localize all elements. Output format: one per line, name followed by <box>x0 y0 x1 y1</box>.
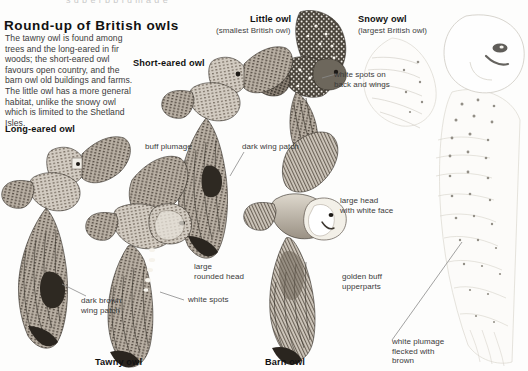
leader-white-spots <box>160 292 184 300</box>
page-title: Round-up of British owls <box>4 18 179 33</box>
annotation-dark-brown-patch: dark brown wing patch <box>81 296 121 315</box>
owl-illustration-page: s u p e r b p l u m a g e <box>0 0 528 371</box>
annotation-white-spots: white spots <box>188 295 229 305</box>
intro-paragraph: The tawny owl is found among trees and t… <box>5 33 137 128</box>
species-label-barn-owl: Barn owl <box>265 357 305 367</box>
annotation-large-head-white-face: large head with white face <box>340 196 393 215</box>
leader-dark-wing-patch <box>230 152 244 176</box>
snowy-owl-illustration <box>364 15 524 366</box>
species-subtitle-snowy-owl: (largest British owl) <box>358 26 427 35</box>
species-label-tawny-owl: Tawny owl <box>95 357 142 367</box>
species-label-little-owl: Little owl <box>250 14 291 24</box>
species-subtitle-little-owl: (smallest British owl) <box>216 26 290 35</box>
leader-white-flecked <box>392 242 462 340</box>
species-label-short-eared-owl: Short-eared owl <box>133 58 205 68</box>
tawny-owl-illustration <box>86 156 192 367</box>
species-label-long-eared-owl: Long-eared owl <box>5 124 75 134</box>
annotation-large-rounded-head: large rounded head <box>194 262 244 281</box>
annotation-white-spots-back: white spots on back and wings <box>334 70 390 89</box>
barn-owl-illustration <box>244 132 347 365</box>
annotation-golden-buff: golden buff upperparts <box>342 272 382 291</box>
species-label-snowy-owl: Snowy owl <box>358 14 407 24</box>
annotation-dark-wing-patch: dark wing patch <box>242 142 299 152</box>
annotation-buff-plumage: buff plumage <box>145 142 192 152</box>
annotation-white-flecked: white plumage flecked with brown <box>392 337 444 366</box>
